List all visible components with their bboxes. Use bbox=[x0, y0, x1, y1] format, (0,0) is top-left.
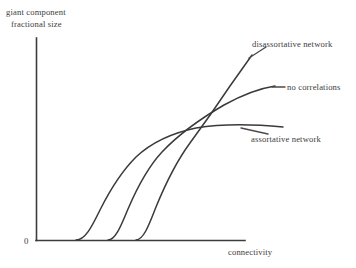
x-axis-label: connectivity bbox=[228, 247, 273, 257]
series-label-assortative-network: assortative network bbox=[251, 134, 321, 144]
series-label-no-correlations: no correlations bbox=[287, 82, 341, 92]
percolation-schematic-chart: giant component fractional size 0 connec… bbox=[0, 0, 356, 268]
series-label-disassortative-network: disassortative network bbox=[252, 39, 333, 49]
y-axis-label-line2: fractional size bbox=[11, 19, 62, 29]
y-axis-origin-tick-label: 0 bbox=[24, 236, 29, 246]
y-axis-label-line1: giant component bbox=[6, 7, 66, 17]
